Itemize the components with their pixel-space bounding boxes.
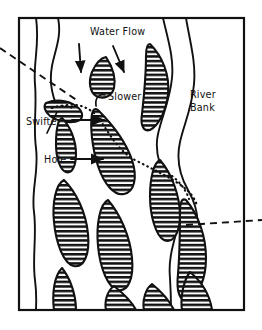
label-water-flow: Water Flow: [90, 26, 145, 37]
label-river-bank-line2: Bank: [190, 102, 215, 113]
river-diagram-svg: Water Flow Slower Swifter Hole River Ban…: [0, 0, 262, 330]
label-river-bank-line1: River: [190, 89, 216, 100]
label-slower: Slower: [108, 91, 142, 102]
label-swifter: Swifter: [26, 116, 61, 127]
label-hole: Hole: [44, 154, 66, 165]
river-diagram-figure: Water Flow Slower Swifter Hole River Ban…: [0, 0, 262, 330]
